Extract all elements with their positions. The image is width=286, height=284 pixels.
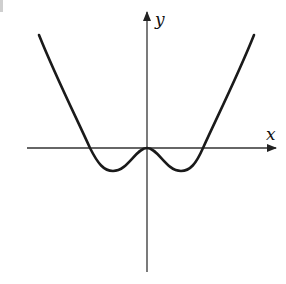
function-graph: y x — [0, 0, 286, 284]
y-axis-label: y — [154, 9, 165, 29]
x-axis-label: x — [266, 124, 276, 144]
